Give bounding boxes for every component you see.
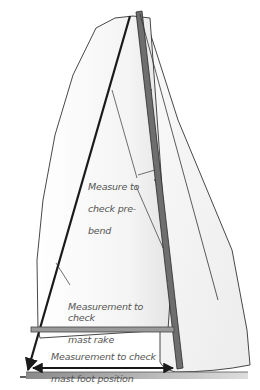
prebend-label: Measure to check pre- bend	[88, 170, 148, 247]
mast-rake-label-line-1: Measurement to check	[68, 301, 168, 323]
prebend-label-line-1: Measure to	[88, 181, 148, 192]
mast-foot-label-line-2: mast foot position	[51, 373, 161, 384]
mast-foot-label-line-1: Measurement to check	[51, 351, 161, 362]
mast-foot-label: Measurement to check mast foot position	[51, 340, 161, 390]
prebend-label-line-3: bend	[88, 225, 148, 236]
prebend-label-line-2: check pre-	[88, 203, 148, 214]
